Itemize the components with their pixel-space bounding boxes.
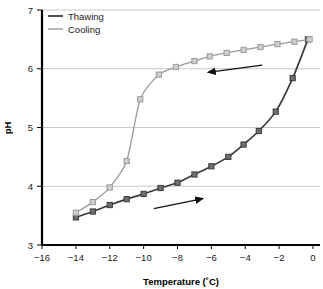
x-tick-label-4: −8 [172, 252, 183, 263]
x-tick-label-6: −4 [240, 252, 251, 263]
legend-label-thawing: Thawing [68, 11, 104, 22]
data-point-marker [107, 185, 112, 190]
data-point-marker [209, 164, 214, 169]
data-point-marker [292, 39, 297, 44]
x-axis-title: Temperature (˚C) [143, 276, 219, 287]
data-point-marker [290, 76, 295, 81]
y-tick-label-4: 7 [28, 5, 33, 16]
annotation-arrows [154, 65, 262, 208]
data-point-marker [241, 47, 246, 52]
data-point-marker [90, 200, 95, 205]
data-point-marker [273, 109, 278, 114]
data-point-marker [226, 154, 231, 159]
data-point-marker [207, 54, 212, 59]
series-line-0 [76, 39, 308, 217]
chart-legend: ThawingCooling [48, 11, 104, 35]
data-point-marker [141, 191, 146, 196]
data-point-marker [307, 37, 312, 42]
data-series-layer [73, 37, 312, 220]
data-point-marker [241, 142, 246, 147]
data-point-marker [73, 210, 78, 215]
y-tick-label-1: 4 [28, 181, 33, 192]
axis-labels-layer: −16−14−12−10−8−6−4−2034567 [28, 5, 316, 264]
data-point-marker [224, 50, 229, 55]
x-tick-label-5: −6 [206, 252, 217, 263]
data-point-marker [173, 64, 178, 69]
data-point-marker [124, 197, 129, 202]
x-tick-label-1: −14 [68, 252, 84, 263]
x-tick-label-0: −16 [34, 252, 50, 263]
data-point-marker [138, 97, 143, 102]
legend-label-cooling: Cooling [68, 24, 100, 35]
y-tick-label-0: 3 [28, 240, 33, 251]
y-tick-label-2: 5 [28, 122, 33, 133]
series-thawing [73, 37, 310, 220]
data-point-marker [158, 185, 163, 190]
data-point-marker [192, 172, 197, 177]
data-point-marker [192, 59, 197, 64]
data-point-marker [107, 202, 112, 207]
x-tick-label-7: −2 [274, 252, 285, 263]
data-point-marker [175, 180, 180, 185]
thawing-direction-arrow [154, 199, 203, 209]
chart-plot-area: −16−14−12−10−8−6−4−2034567 Temperature (… [0, 0, 323, 289]
data-point-marker [275, 41, 280, 46]
data-point-marker [156, 72, 161, 77]
x-tick-label-2: −12 [102, 252, 118, 263]
data-point-marker [258, 44, 263, 49]
x-tick-label-8: 0 [310, 252, 315, 263]
series-cooling [73, 37, 312, 216]
chart-figure: −16−14−12−10−8−6−4−2034567 Temperature (… [0, 0, 323, 289]
data-point-marker [124, 158, 129, 163]
x-tick-label-3: −10 [136, 252, 152, 263]
y-tick-label-3: 6 [28, 63, 33, 74]
data-point-marker [256, 128, 261, 133]
y-axis-title: pH [2, 122, 13, 135]
data-point-marker [90, 209, 95, 214]
